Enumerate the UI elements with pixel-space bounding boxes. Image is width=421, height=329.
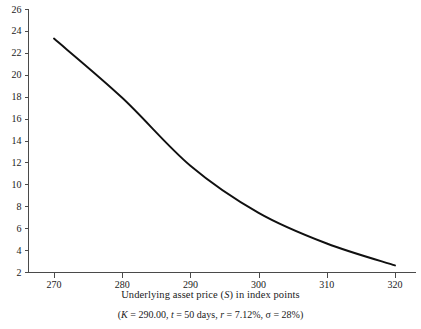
subtitle-close-paren: ) <box>300 309 303 320</box>
chart-figure: 2468101214161820222426 27028029030031032… <box>0 0 421 329</box>
y-tick-label: 10 <box>12 179 22 190</box>
axes-group <box>29 9 417 273</box>
y-tick-label: 6 <box>17 223 22 234</box>
y-tick-label: 26 <box>12 4 22 15</box>
line-chart-plot: 2468101214161820222426 27028029030031032… <box>0 0 421 329</box>
subtitle-sigma-value: = 28% <box>271 309 300 320</box>
y-tick-label: 8 <box>17 201 22 212</box>
data-series-line <box>54 39 395 266</box>
y-tick-label: 20 <box>12 69 22 80</box>
y-tick-label: 14 <box>12 135 22 146</box>
x-axis-label: Underlying asset price (S) in index poin… <box>0 289 421 300</box>
y-tick-label: 18 <box>12 91 22 102</box>
y-tick-label: 2 <box>17 267 22 278</box>
y-tick-label: 16 <box>12 113 22 124</box>
y-tick-label: 12 <box>12 157 22 168</box>
subtitle-time-value: = 50 days, <box>174 309 220 320</box>
y-tick-label: 24 <box>12 25 22 36</box>
subtitle-strike-value: = 290.00, <box>128 309 171 320</box>
chart-subtitle: (K = 290.00, t = 50 days, r = 7.12%, σ =… <box>0 309 421 320</box>
y-axis-ticks: 2468101214161820222426 <box>12 4 29 278</box>
x-axis-label-prefix: Underlying asset price ( <box>121 289 224 300</box>
subtitle-rate-value: = 7.12%, <box>224 309 265 320</box>
x-axis-label-suffix: ) in index points <box>230 289 300 300</box>
x-axis-ticks: 270280290300310320 <box>47 273 403 291</box>
y-tick-label: 22 <box>12 47 22 58</box>
y-tick-label: 4 <box>17 245 22 256</box>
subtitle-strike-symbol: K <box>121 309 128 320</box>
